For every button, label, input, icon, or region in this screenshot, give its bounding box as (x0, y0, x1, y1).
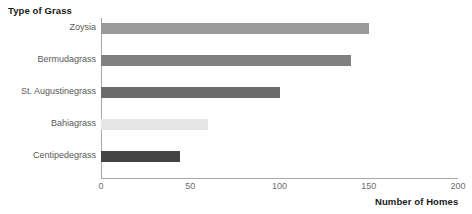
bar-row (101, 146, 458, 167)
category-label: Bermudagrass (0, 54, 96, 64)
category-label: Bahiagrass (0, 118, 96, 128)
bar-chart: Type of Grass Number of Homes ZoysiaBerm… (0, 0, 472, 214)
bar (101, 151, 180, 162)
bar-row (101, 114, 458, 135)
bar (101, 23, 369, 34)
y-axis-title: Type of Grass (8, 5, 72, 16)
category-label: Zoysia (0, 22, 96, 32)
x-tick-label: 150 (361, 181, 376, 191)
x-axis-title: Number of Homes (375, 196, 458, 207)
category-label: St. Augustinegrass (0, 86, 96, 96)
bar (101, 119, 208, 130)
x-tick-label: 100 (272, 181, 287, 191)
x-tick-label: 0 (98, 181, 103, 191)
x-tick-label: 200 (450, 181, 465, 191)
bar (101, 87, 280, 98)
x-tick-label: 50 (185, 181, 195, 191)
bar (101, 55, 351, 66)
bar-row (101, 18, 458, 39)
bar-row (101, 82, 458, 103)
bar-row (101, 50, 458, 71)
category-label: Centipedegrass (0, 150, 96, 160)
x-axis-line (101, 178, 458, 179)
